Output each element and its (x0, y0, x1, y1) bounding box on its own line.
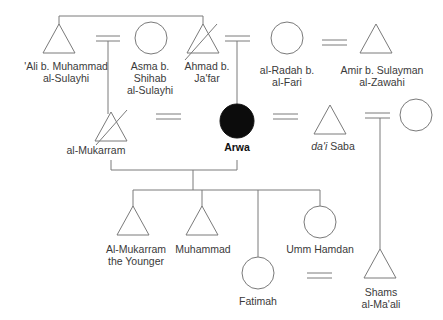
male-symbol-shams (364, 249, 396, 278)
label-dai-prefix: da'i (311, 140, 327, 152)
label-dai-saba: da'i Saba (311, 140, 354, 152)
female-symbol-umm-hamdan (304, 206, 336, 238)
male-symbol-dai-saba (314, 105, 346, 134)
label-ali-line1: 'Ali b. Muhammad (24, 60, 108, 72)
kinship-diagram (0, 0, 443, 320)
label-arwa-line1: Arwa (224, 141, 250, 153)
label-mukarram-younger-line1: Al-Mukarram (106, 243, 166, 255)
label-radah-line2: al-Fari (260, 76, 314, 88)
label-ahmad-line1: Ahmad b. (185, 60, 230, 72)
label-mukarram-younger-line2: the Younger (106, 255, 166, 267)
male-symbol-ahmad (187, 24, 219, 53)
label-muhammad: Muhammad (175, 243, 230, 255)
female-symbol-asma (135, 22, 167, 54)
label-radah-line1: al-Radah b. (260, 64, 314, 76)
male-symbol-amir (360, 24, 392, 53)
label-mukarram-line1: al-Mukarram (67, 144, 126, 156)
male-symbol-ali (43, 24, 75, 53)
label-shams-line2: al-Ma'ali (362, 298, 401, 310)
descent-line-children (111, 160, 237, 170)
label-ahmad: Ahmad b. Ja'far (185, 60, 230, 84)
label-fatimah: Fatimah (239, 295, 277, 307)
label-mukarram-younger: Al-Mukarram the Younger (106, 243, 166, 267)
label-asma-line1: Asma b. (127, 60, 173, 72)
label-muhammad-line1: Muhammad (175, 243, 230, 255)
label-ali: 'Ali b. Muhammad al-Sulayhi (24, 60, 108, 84)
label-umm-hamdan-line1: Umm Hamdan (286, 243, 354, 255)
female-symbol-radah (271, 22, 303, 54)
female-symbol-fatimah (242, 257, 274, 289)
ego-symbol-arwa (220, 104, 254, 138)
sibling-line-ali-ahmad (59, 16, 203, 25)
label-mukarram: al-Mukarram (67, 144, 126, 156)
label-asma-line3: al-Sulayhi (127, 84, 173, 96)
label-arwa: Arwa (224, 141, 250, 153)
label-fatimah-line1: Fatimah (239, 295, 277, 307)
label-umm-hamdan: Umm Hamdan (286, 243, 354, 255)
label-amir: Amir b. Sulayman al-Zawahi (341, 64, 424, 88)
label-asma: Asma b. Shihab al-Sulayhi (127, 60, 173, 96)
male-symbol-mukarram (95, 112, 127, 141)
label-shams: Shams al-Ma'ali (362, 286, 401, 310)
label-amir-line1: Amir b. Sulayman (341, 64, 424, 76)
male-symbol-muhammad (186, 206, 218, 235)
label-shams-line1: Shams (362, 286, 401, 298)
label-amir-line2: al-Zawahi (341, 76, 424, 88)
label-ahmad-line2: Ja'far (185, 72, 230, 84)
label-ali-line2: al-Sulayhi (24, 72, 108, 84)
label-dai-line1: Saba (330, 140, 355, 152)
male-symbol-mukarram-younger (117, 206, 149, 235)
label-asma-line2: Shihab (127, 72, 173, 84)
female-symbol-saba-wife (400, 99, 432, 131)
label-radah: al-Radah b. al-Fari (260, 64, 314, 88)
